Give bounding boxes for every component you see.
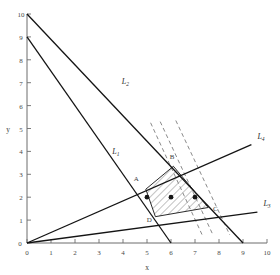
y-tick-label: 8 xyxy=(19,57,23,65)
y-tick-label: 9 xyxy=(19,34,23,42)
vertex-label-b: B xyxy=(170,153,175,161)
y-tick-label: 5 xyxy=(19,126,23,134)
x-tick-label: 5 xyxy=(145,249,149,257)
y-tick-label: 1 xyxy=(19,217,23,225)
chart-background xyxy=(0,0,280,275)
x-tick-label: 9 xyxy=(241,249,245,257)
x-tick-label: 0 xyxy=(25,249,29,257)
x-tick-label: 7 xyxy=(193,249,197,257)
y-tick-label: 10 xyxy=(18,11,26,19)
vertex-label-d: D xyxy=(147,216,152,224)
vertex-label-c: C xyxy=(213,205,218,213)
x-tick-label: 8 xyxy=(217,249,221,257)
x-tick-label: 2 xyxy=(73,249,77,257)
y-axis-label: y xyxy=(6,125,10,134)
lattice-point-2 xyxy=(169,195,174,200)
vertex-label-a: A xyxy=(134,175,139,183)
y-tick-label: 4 xyxy=(19,148,23,156)
x-tick-label: 1 xyxy=(49,249,53,257)
chart-svg: 012345678910012345678910xyL1L2L3L4ABCD xyxy=(0,0,280,275)
x-tick-label: 10 xyxy=(264,249,272,257)
x-tick-label: 3 xyxy=(97,249,101,257)
y-tick-label: 2 xyxy=(19,194,23,202)
y-tick-label: 0 xyxy=(18,240,22,248)
x-tick-label: 4 xyxy=(121,249,125,257)
x-axis-label: x xyxy=(145,263,149,272)
lattice-point-1 xyxy=(145,195,150,200)
chart-figure: 012345678910012345678910xyL1L2L3L4ABCD xyxy=(0,0,280,275)
y-tick-label: 6 xyxy=(19,103,23,111)
y-tick-label: 3 xyxy=(19,171,23,179)
lattice-point-3 xyxy=(193,195,198,200)
x-tick-label: 6 xyxy=(169,249,173,257)
y-tick-label: 7 xyxy=(19,80,23,88)
